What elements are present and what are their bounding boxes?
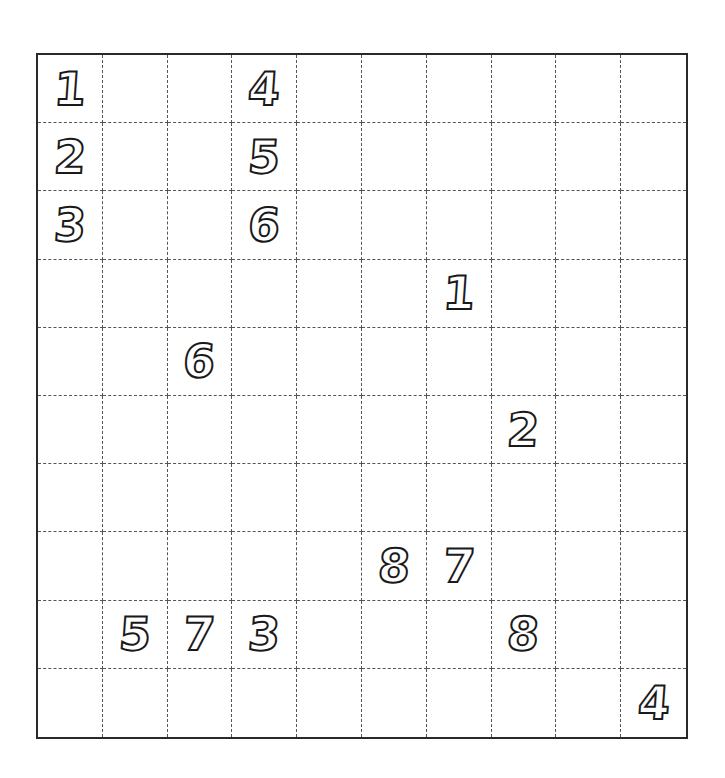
grid-cell[interactable]: [168, 396, 233, 464]
grid-cell[interactable]: [427, 191, 492, 259]
grid-cell[interactable]: [232, 532, 297, 600]
grid-cell[interactable]: [297, 123, 362, 191]
grid-cell[interactable]: [556, 55, 621, 123]
grid-cell[interactable]: [362, 55, 427, 123]
grid-cell[interactable]: [556, 532, 621, 600]
grid-cell[interactable]: [103, 396, 168, 464]
grid-cell[interactable]: [168, 123, 233, 191]
grid-cell[interactable]: [556, 123, 621, 191]
grid-cell[interactable]: [168, 669, 233, 737]
grid-cell[interactable]: [362, 464, 427, 532]
grid-cell[interactable]: [38, 464, 103, 532]
grid-cell[interactable]: [297, 260, 362, 328]
grid-cell[interactable]: 3: [38, 191, 103, 259]
grid-cell[interactable]: [362, 260, 427, 328]
grid-cell[interactable]: [232, 464, 297, 532]
grid-cell[interactable]: [362, 396, 427, 464]
grid-cell[interactable]: [556, 464, 621, 532]
grid-cell[interactable]: [297, 532, 362, 600]
grid-cell[interactable]: [621, 464, 686, 532]
grid-cell[interactable]: [492, 532, 557, 600]
grid-cell[interactable]: [362, 601, 427, 669]
grid-cell[interactable]: [103, 532, 168, 600]
grid-cell[interactable]: [621, 601, 686, 669]
grid-cell[interactable]: [297, 669, 362, 737]
grid-cell[interactable]: [38, 532, 103, 600]
grid-cell[interactable]: [297, 464, 362, 532]
grid-cell[interactable]: [427, 601, 492, 669]
grid-cell[interactable]: 4: [621, 669, 686, 737]
grid-cell[interactable]: [427, 396, 492, 464]
grid-cell[interactable]: [556, 396, 621, 464]
grid-cell[interactable]: [621, 328, 686, 396]
grid-cell[interactable]: [492, 55, 557, 123]
grid-cell[interactable]: [621, 123, 686, 191]
grid-cell[interactable]: [556, 669, 621, 737]
grid-cell[interactable]: [621, 396, 686, 464]
grid-cell[interactable]: [168, 191, 233, 259]
grid-cell[interactable]: 2: [492, 396, 557, 464]
grid-cell[interactable]: [232, 328, 297, 396]
grid-cell[interactable]: [492, 328, 557, 396]
grid-cell[interactable]: [362, 669, 427, 737]
grid-cell[interactable]: [427, 55, 492, 123]
grid-cell[interactable]: [556, 260, 621, 328]
grid-cell[interactable]: [556, 328, 621, 396]
grid-cell[interactable]: 5: [232, 123, 297, 191]
grid-cell[interactable]: 3: [232, 601, 297, 669]
grid-cell[interactable]: 4: [232, 55, 297, 123]
grid-cell[interactable]: 5: [103, 601, 168, 669]
grid-cell[interactable]: [297, 55, 362, 123]
grid-cell[interactable]: [103, 669, 168, 737]
grid-cell[interactable]: [232, 669, 297, 737]
grid-cell[interactable]: [297, 601, 362, 669]
grid-cell[interactable]: [427, 464, 492, 532]
grid-cell[interactable]: [168, 464, 233, 532]
grid-cell[interactable]: [492, 669, 557, 737]
grid-cell[interactable]: [621, 260, 686, 328]
grid-cell[interactable]: 6: [168, 328, 233, 396]
grid-cell[interactable]: [427, 123, 492, 191]
grid-cell[interactable]: [232, 396, 297, 464]
grid-cell[interactable]: [297, 328, 362, 396]
grid-cell[interactable]: [621, 532, 686, 600]
grid-cell[interactable]: [168, 55, 233, 123]
grid-cell[interactable]: [103, 328, 168, 396]
grid-cell[interactable]: [621, 55, 686, 123]
grid-cell[interactable]: [297, 396, 362, 464]
grid-cell[interactable]: 7: [427, 532, 492, 600]
grid-cell[interactable]: [103, 464, 168, 532]
grid-cell[interactable]: [492, 260, 557, 328]
grid-cell[interactable]: [621, 191, 686, 259]
grid-cell[interactable]: [362, 328, 427, 396]
grid-cell[interactable]: [38, 601, 103, 669]
grid-cell[interactable]: [103, 123, 168, 191]
grid-cell[interactable]: [38, 260, 103, 328]
grid-cell[interactable]: [168, 532, 233, 600]
grid-cell[interactable]: [103, 55, 168, 123]
grid-cell[interactable]: 7: [168, 601, 233, 669]
grid-cell[interactable]: [297, 191, 362, 259]
grid-cell[interactable]: 6: [232, 191, 297, 259]
grid-cell[interactable]: [168, 260, 233, 328]
grid-cell[interactable]: [556, 191, 621, 259]
grid-cell[interactable]: [362, 191, 427, 259]
grid-cell[interactable]: 1: [427, 260, 492, 328]
grid-cell[interactable]: [103, 191, 168, 259]
grid-cell[interactable]: [427, 669, 492, 737]
grid-cell[interactable]: 1: [38, 55, 103, 123]
grid-cell[interactable]: [103, 260, 168, 328]
grid-cell[interactable]: [232, 260, 297, 328]
grid-cell[interactable]: [492, 191, 557, 259]
grid-cell[interactable]: [492, 123, 557, 191]
grid-cell[interactable]: [556, 601, 621, 669]
grid-cell[interactable]: 8: [492, 601, 557, 669]
grid-cell[interactable]: [362, 123, 427, 191]
grid-cell[interactable]: [427, 328, 492, 396]
grid-cell[interactable]: [38, 669, 103, 737]
grid-cell[interactable]: 2: [38, 123, 103, 191]
grid-cell[interactable]: [38, 328, 103, 396]
grid-cell[interactable]: [492, 464, 557, 532]
grid-cell[interactable]: [38, 396, 103, 464]
grid-cell[interactable]: 8: [362, 532, 427, 600]
